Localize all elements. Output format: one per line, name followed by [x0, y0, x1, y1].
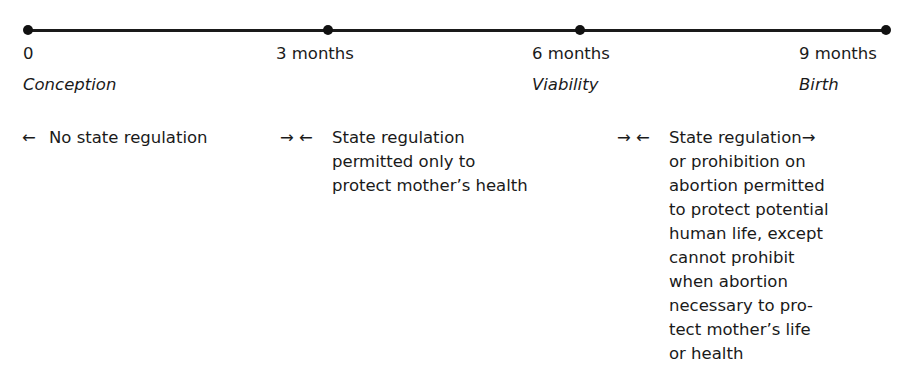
point-0-label: Conception	[23, 75, 116, 95]
period-3-text: State regulation→ or prohibition on abor…	[669, 126, 829, 366]
timeline-dot-0	[23, 25, 33, 35]
point-0-value: 0	[23, 44, 34, 64]
period-3-line: human life, except	[669, 222, 829, 246]
period-3-line: or prohibition on	[669, 150, 829, 174]
period-2-text: State regulation permitted only to prote…	[332, 126, 528, 198]
period-1-arrows: ←	[22, 126, 36, 150]
period-3-line: when abortion	[669, 270, 829, 294]
period-1-text: No state regulation	[49, 126, 208, 150]
period-3-line: tect mother’s life	[669, 318, 829, 342]
period-3-line: State regulation→	[669, 126, 829, 150]
period-2-arrows: → ←	[280, 126, 313, 150]
period-3-line: abortion permitted	[669, 174, 829, 198]
point-9-value: 9 months	[799, 44, 877, 64]
point-9-label: Birth	[799, 75, 839, 95]
timeline-dot-6	[575, 25, 585, 35]
period-2-line: protect mother’s health	[332, 174, 528, 198]
timeline-line	[28, 29, 886, 32]
period-3-line: or health	[669, 342, 829, 366]
timeline-dot-3	[323, 25, 333, 35]
point-6-value: 6 months	[532, 44, 610, 64]
timeline-dot-9	[881, 25, 891, 35]
period-3-line: cannot prohibit	[669, 246, 829, 270]
point-3-value: 3 months	[276, 44, 354, 64]
point-6-label: Viability	[532, 75, 598, 95]
period-3-line: necessary to pro-	[669, 294, 829, 318]
period-3-arrows: → ←	[617, 126, 650, 150]
period-1-line: No state regulation	[49, 126, 208, 150]
period-2-line: permitted only to	[332, 150, 528, 174]
period-3-line: to protect potential	[669, 198, 829, 222]
period-2-line: State regulation	[332, 126, 528, 150]
